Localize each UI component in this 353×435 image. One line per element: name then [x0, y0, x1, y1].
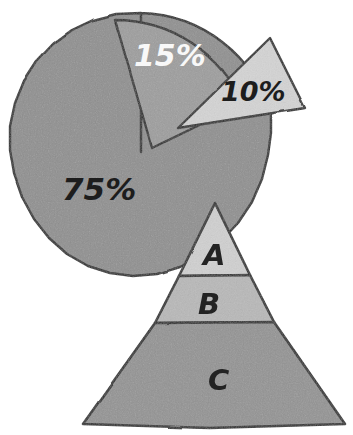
- pie-label-75: 75%: [62, 171, 136, 207]
- pie-label-15: 15%: [134, 38, 206, 73]
- figure-canvas: 75% 15% 10% A B C: [0, 0, 353, 435]
- chart-illustration: 75% 15% 10% A B C: [0, 0, 353, 435]
- pyramid-label-b: B: [198, 287, 220, 321]
- pie-label-10: 10%: [221, 76, 286, 107]
- pyramid-label-c: C: [208, 363, 229, 397]
- pyramid-label-a: A: [201, 238, 225, 272]
